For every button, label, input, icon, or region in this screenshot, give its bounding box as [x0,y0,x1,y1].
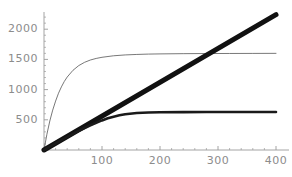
x-tick-label-300: 300 [198,155,238,166]
y-tick-label-1000: 1000 [0,84,38,95]
y-tick-label-1500: 1500 [0,53,38,64]
y-tick-label-2000: 2000 [0,23,38,34]
x-tick-label-200: 200 [140,155,180,166]
data-series-group [44,15,276,150]
x-axis-ticks [102,146,276,150]
x-tick-label-400: 400 [256,155,292,166]
plot-svg [0,0,292,177]
y-axis-ticks [44,29,48,120]
y-tick-label-500: 500 [0,114,38,125]
series-line-thin-saturating-curve [44,53,276,150]
x-tick-label-100: 100 [82,155,122,166]
chart-container: 100200300400 500100015002000 [0,0,292,177]
series-line-medium-saturating-curve [44,112,276,150]
